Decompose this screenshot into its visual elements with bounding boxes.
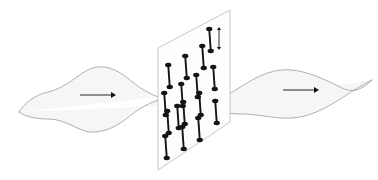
polarization-diagram: Polarization of a light wave passing thr… (0, 0, 378, 180)
diagram-canvas: Polarization of a light wave passing thr… (0, 0, 378, 180)
